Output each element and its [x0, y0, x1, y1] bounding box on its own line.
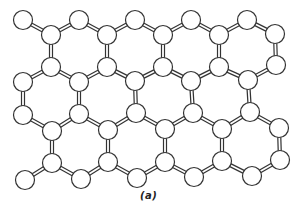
atom-a1: [14, 11, 33, 30]
atom-h4: [185, 168, 204, 187]
atom-h3: [128, 169, 147, 188]
atom-f2: [99, 121, 118, 140]
atom-d5: [239, 71, 258, 90]
atom-e2: [70, 105, 89, 124]
atom-b4: [210, 26, 229, 45]
atom-d3: [126, 72, 145, 91]
atom-d2: [70, 73, 89, 92]
atom-a3: [126, 11, 145, 30]
atom-c3: [154, 58, 173, 77]
atom-e4: [184, 104, 203, 123]
atom-d4: [182, 72, 201, 91]
atom-b2: [98, 26, 117, 45]
atom-f1: [43, 122, 62, 141]
atom-e1: [14, 106, 33, 125]
atom-e5: [241, 103, 260, 122]
honeycomb-lattice-diagram: [0, 0, 305, 213]
atom-a5: [238, 11, 257, 30]
atom-b5: [266, 25, 285, 44]
atom-a4: [182, 11, 201, 30]
atom-h2: [72, 170, 91, 189]
atom-a2: [70, 11, 89, 30]
atom-f3: [156, 120, 175, 139]
bond-cores: [23, 20, 280, 180]
atom-d1: [14, 73, 33, 92]
atom-f5: [270, 119, 289, 138]
atom-c2: [98, 58, 117, 77]
atom-c1: [42, 58, 61, 77]
atom-b3: [154, 26, 173, 45]
atom-g2: [99, 153, 118, 172]
bond-outlines: [23, 20, 280, 180]
atom-g3: [156, 153, 175, 172]
atom-f4: [213, 120, 232, 139]
figure-caption: (a): [140, 190, 157, 201]
atom-g4: [213, 152, 232, 171]
atom-h5: [243, 167, 262, 186]
atom-e3: [127, 104, 146, 123]
atom-c4: [210, 58, 229, 77]
atom-b1: [42, 26, 61, 45]
atom-g1: [43, 154, 62, 173]
atom-c5: [267, 56, 286, 75]
atom-h1: [16, 171, 35, 190]
atom-g5: [271, 151, 290, 170]
